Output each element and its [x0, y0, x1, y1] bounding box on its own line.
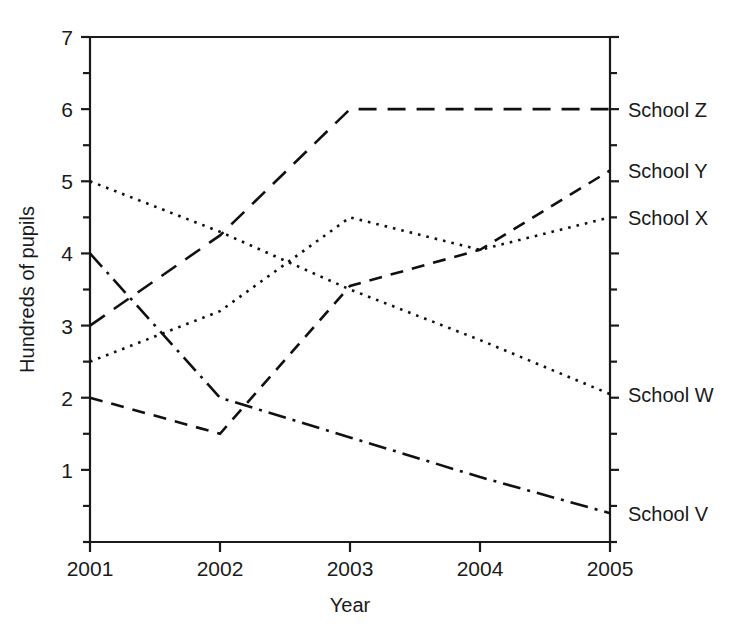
y-axis-title: Hundreds of pupils — [16, 206, 38, 373]
series-labels: School ZSchool YSchool XSchool WSchool V — [628, 99, 714, 525]
x-tick-label: 2002 — [197, 557, 244, 580]
series-label-school-x: School X — [628, 207, 708, 229]
series-line-school-y — [90, 170, 610, 433]
x-tick-label: 2003 — [327, 557, 374, 580]
y-tick-label: 6 — [61, 98, 73, 121]
series-line-school-v — [90, 253, 610, 513]
y-tick-label: 4 — [61, 242, 73, 265]
axis-titles: YearHundreds of pupils — [16, 206, 371, 616]
y-tick-label: 7 — [61, 26, 73, 49]
series-label-school-y: School Y — [628, 160, 708, 182]
series-lines — [90, 109, 610, 513]
y-tick-label: 3 — [61, 315, 73, 338]
axes — [81, 37, 619, 552]
x-axis-title: Year — [330, 594, 371, 616]
x-tick-label: 2005 — [587, 557, 634, 580]
x-tick-label: 2001 — [67, 557, 114, 580]
y-tick-label: 2 — [61, 387, 73, 410]
x-tick-label: 2004 — [457, 557, 504, 580]
series-label-school-v: School V — [628, 503, 709, 525]
series-label-school-w: School W — [628, 384, 714, 406]
y-tick-label: 1 — [61, 459, 73, 482]
series-label-school-z: School Z — [628, 99, 707, 121]
line-chart: School ZSchool YSchool XSchool WSchool V… — [0, 0, 735, 639]
chart-canvas: School ZSchool YSchool XSchool WSchool V… — [0, 0, 735, 639]
y-tick-label: 5 — [61, 170, 73, 193]
